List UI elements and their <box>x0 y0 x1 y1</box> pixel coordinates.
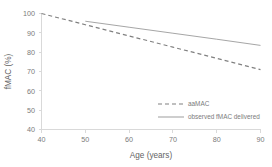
chart-container: 100 90 80 70 60 50 40 40 50 60 70 80 90 … <box>0 0 272 167</box>
y-tick-label-40: 40 <box>27 125 35 134</box>
x-tick-label-80: 80 <box>213 135 221 144</box>
legend-label-aamac: aaMAC <box>188 100 210 107</box>
y-axis-title: fMAC (%) <box>4 53 13 89</box>
y-tick-label-50: 50 <box>27 106 35 115</box>
x-tick-label-90: 90 <box>257 135 265 144</box>
y-tick-label-100: 100 <box>23 9 35 18</box>
y-tick-label-70: 70 <box>27 67 35 76</box>
y-tick-label-60: 60 <box>27 87 35 96</box>
x-tick-label-60: 60 <box>125 135 133 144</box>
line-chart: 100 90 80 70 60 50 40 40 50 60 70 80 90 … <box>0 0 272 167</box>
x-axis-title: Age (years) <box>130 151 173 160</box>
y-tick-label-80: 80 <box>27 48 35 57</box>
x-tick-label-50: 50 <box>81 135 89 144</box>
legend-label-observed-fmac: observed fMAC delivered <box>188 113 260 120</box>
y-tick-label-90: 90 <box>27 29 35 38</box>
x-tick-label-70: 70 <box>169 135 177 144</box>
x-tick-label-40: 40 <box>38 135 46 144</box>
